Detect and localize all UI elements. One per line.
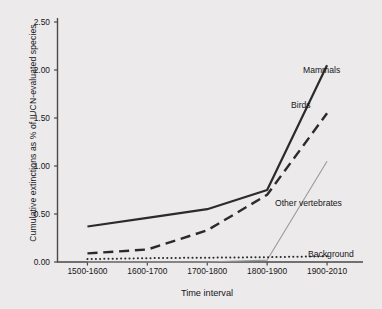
x-tick-label: 1900-2010 xyxy=(307,266,347,276)
series-label-background: Background xyxy=(308,249,354,259)
chart-figure: 0.000.501.001.502.002.50 1500-16001600-1… xyxy=(0,0,382,309)
x-axis-title: Time interval xyxy=(57,288,357,298)
series-line-other-vertebrates xyxy=(87,161,327,262)
series-label-birds: Birds xyxy=(291,100,311,110)
series-label-mammals: Mammals xyxy=(303,65,340,75)
x-tick-label: 1800-1900 xyxy=(247,266,287,276)
series-line-birds xyxy=(87,113,327,253)
axis-spine xyxy=(58,18,364,262)
x-tick-label: 1700-1800 xyxy=(187,266,227,276)
series-label-other-vertebrates: Other vertebrates xyxy=(275,198,342,208)
series-line-background xyxy=(87,256,327,259)
plot-area xyxy=(0,0,382,309)
y-axis-title: Cumulative extinctions as % of IUCN-eval… xyxy=(28,8,38,258)
x-tick-label: 1500-1600 xyxy=(67,266,107,276)
x-axis-tick-labels: 1500-16001600-17001700-18001800-19001900… xyxy=(57,266,357,282)
x-tick-label: 1600-1700 xyxy=(127,266,167,276)
